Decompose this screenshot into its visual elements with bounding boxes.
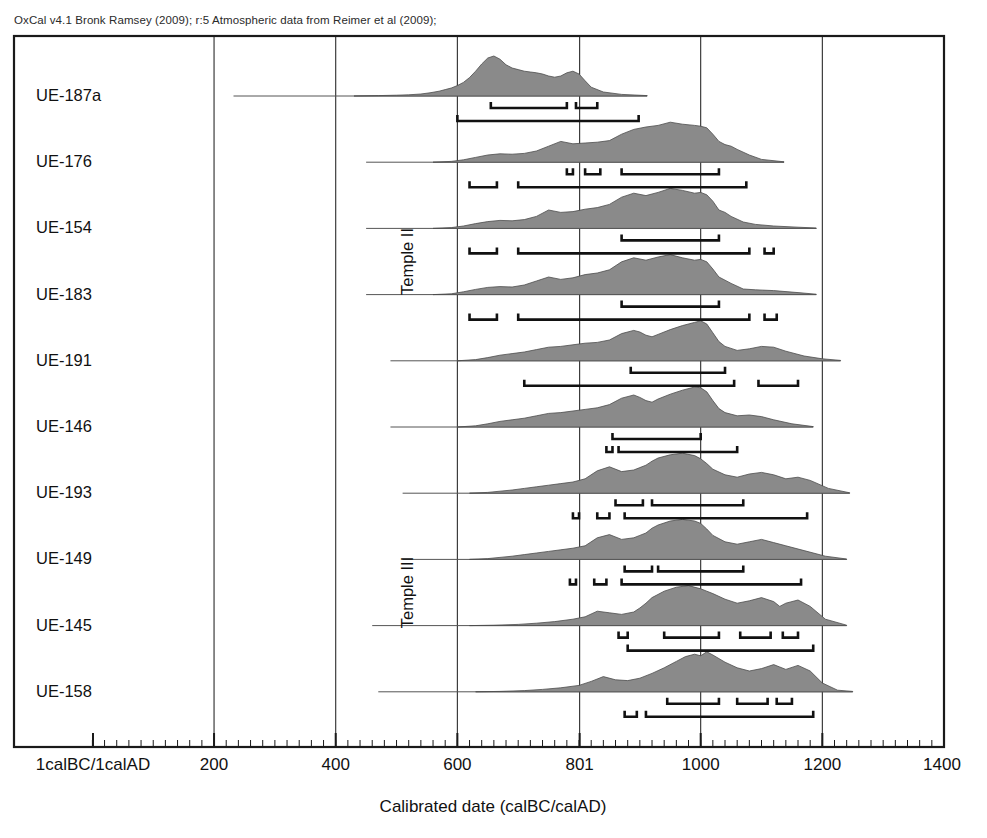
hpd-95-bracket <box>524 380 734 386</box>
hpd-95-bracket <box>518 314 749 320</box>
plot-border <box>14 36 944 747</box>
sample-label: UE-187a <box>36 86 102 104</box>
sample-label: UE-146 <box>36 417 92 435</box>
sample-label: UE-193 <box>36 483 92 501</box>
x-tick-label: 200 <box>200 755 228 774</box>
probability-distribution <box>354 56 647 96</box>
sample-label: UE-158 <box>36 682 92 700</box>
hpd-68-bracket <box>585 168 600 174</box>
plot-frame <box>14 36 944 747</box>
hpd-95-bracket <box>518 181 746 187</box>
probability-distribution <box>457 321 840 361</box>
hpd-68-bracket <box>740 632 770 638</box>
hpd-68-bracket <box>783 632 798 638</box>
probability-distribution <box>476 652 853 692</box>
hpd-68-bracket <box>631 367 725 373</box>
hpd-95-bracket <box>470 314 497 320</box>
sample-label: UE-149 <box>36 549 92 567</box>
hpd-95-bracket <box>594 578 606 584</box>
hpd-68-bracket <box>491 102 567 108</box>
probability-distribution <box>433 188 816 228</box>
probability-distribution <box>470 453 850 493</box>
hpd-95-bracket <box>573 512 579 518</box>
hpd-95-bracket <box>625 711 637 717</box>
sample-label: UE-191 <box>36 351 92 369</box>
oxcal-plot-page: OxCal v4.1 Bronk Ramsey (2009); r:5 Atmo… <box>0 0 987 838</box>
probability-distribution <box>433 255 816 295</box>
sample-label: UE-145 <box>36 616 92 634</box>
hpd-95-bracket <box>765 314 777 320</box>
probability-distribution <box>457 387 813 427</box>
hpd-95-bracket <box>457 115 638 121</box>
hpd-68-bracket <box>664 632 719 638</box>
x-tick-label: 1400 <box>923 755 961 774</box>
hpd-68-bracket <box>622 301 719 307</box>
phase-label: Temple III <box>398 557 416 629</box>
probability-distribution <box>470 586 847 626</box>
hpd-95-bracket <box>470 181 497 187</box>
phase-labels: Temple IITemple III <box>398 228 416 628</box>
distribution-curves <box>234 56 853 692</box>
hpd-68-bracket <box>667 698 719 704</box>
sample-label: UE-154 <box>36 218 92 236</box>
hpd-68-bracket <box>737 698 767 704</box>
x-tick-label: 400 <box>322 755 350 774</box>
hpd-68-bracket <box>612 433 700 439</box>
hpd-68-bracket <box>652 499 743 505</box>
hpd-95-bracket <box>518 247 749 253</box>
x-tick-label: 801 <box>565 755 593 774</box>
hpd-95-bracket <box>606 446 612 452</box>
hpd-95-bracket <box>597 512 609 518</box>
hpd-95-bracket <box>570 578 576 584</box>
gridlines <box>214 36 822 747</box>
x-axis-title: Calibrated date (calBC/calAD) <box>380 797 607 816</box>
hpd-68-bracket <box>616 499 643 505</box>
probability-distribution <box>470 519 847 559</box>
hpd-68-bracket <box>777 698 792 704</box>
sample-labels: UE-187aUE-176UE-154UE-183UE-191UE-146UE-… <box>36 86 102 700</box>
calibration-plot: UE-187aUE-176UE-154UE-183UE-191UE-146UE-… <box>0 0 987 838</box>
sample-label: UE-176 <box>36 152 92 170</box>
x-tick-label: 1200 <box>803 755 841 774</box>
x-tick-label: 600 <box>443 755 471 774</box>
hpd-68-bracket <box>567 168 573 174</box>
hpd-95-bracket <box>628 645 814 651</box>
axis-tick-labels: 1calBC/1calAD200400600801100012001400 <box>36 755 961 774</box>
probability-distribution <box>433 122 784 162</box>
hpd-95-bracket <box>765 247 774 253</box>
hpd-95-bracket <box>622 578 801 584</box>
x-tick-label: 1calBC/1calAD <box>36 755 150 774</box>
hpd-95-bracket <box>619 446 738 452</box>
hpd-68-bracket <box>622 234 719 240</box>
phase-label: Temple II <box>398 228 416 295</box>
hpd-68-bracket <box>619 632 628 638</box>
hpd-68-bracket <box>625 565 652 571</box>
hpd-68-bracket <box>622 168 719 174</box>
hpd-95-bracket <box>470 247 497 253</box>
hpd-95-bracket <box>625 512 807 518</box>
axis-ticks <box>92 733 944 747</box>
hpd-95-bracket <box>758 380 798 386</box>
sample-label: UE-183 <box>36 285 92 303</box>
hpd-95-bracket <box>646 711 813 717</box>
x-tick-label: 1000 <box>682 755 720 774</box>
